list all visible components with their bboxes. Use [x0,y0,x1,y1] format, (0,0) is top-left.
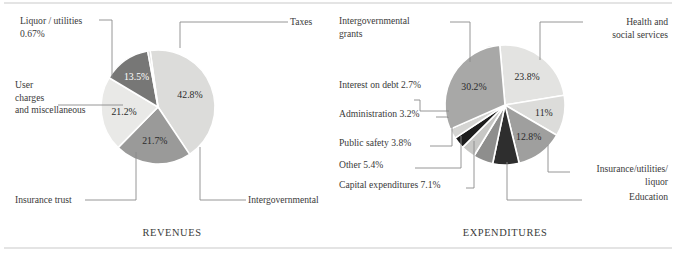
caption-revenues: REVENUES [142,227,201,238]
leader-liquor-utilities [99,20,112,78]
slice-value-label: 23.8% [514,71,539,82]
pie-expenditures: 23.8%11%12.8%30.2% [445,45,565,165]
administration-label: Administration 3.2% [339,108,419,119]
interest-debt-label: Interest on debt 2.7% [339,79,421,90]
leader-insurance-utilities [548,145,570,172]
pies-layer: 42.8%21.7%21.2%13.5%23.8%11%12.8%30.2% [101,45,565,165]
two-pie-figure: 42.8%21.7%21.2%13.5%23.8%11%12.8%30.2% T… [0,0,674,264]
other-label: Other 5.4% [339,159,383,170]
insurance-trust-label: Insurance trust [15,194,72,205]
capital-expenditures-label: Capital expenditures 7.1% [339,179,441,190]
captions-layer: REVENUESEXPENDITURES [142,227,547,238]
education-label: Education [629,191,668,202]
slice-value-label: 42.8% [177,89,202,100]
leader-education [507,162,582,200]
insurance-utilities-label: Insurance/utilities/liquor [597,163,669,187]
slice-value-label: 11% [535,107,553,118]
leader-health-social [540,22,583,60]
leader-taxes [180,22,288,48]
health-social-label: Health andsocial services [612,16,668,40]
user-charges-label: Userchargesand miscellaneous [15,79,86,115]
intergov-grants-label: Intergovernmentalgrants [339,15,410,39]
slice-value-label: 21.7% [142,135,167,146]
slice-value-label: 21.2% [111,106,136,117]
figure-canvas: 42.8%21.7%21.2%13.5%23.8%11%12.8%30.2% T… [0,0,674,264]
public-safety-label: Public safety 3.8% [339,137,411,148]
leader-intergovernmental [200,147,246,200]
pie-revenues: 42.8%21.7%21.2%13.5% [101,50,215,164]
taxes-label: Taxes [290,16,313,27]
leader-intergovernmental-grants [450,22,470,62]
intergovernmental-label: Intergovernmental [248,194,319,205]
slice-value-label: 12.8% [516,131,541,142]
leader-other [415,136,461,168]
slice-value-label: 30.2% [461,81,486,92]
caption-expenditures: EXPENDITURES [463,227,548,238]
leader-public-safety [430,127,452,146]
leader-insurance-trust [85,152,136,200]
slice-value-label: 13.5% [124,71,149,82]
liquor-utilities-label: Liquor / utilities0.67% [20,15,83,39]
